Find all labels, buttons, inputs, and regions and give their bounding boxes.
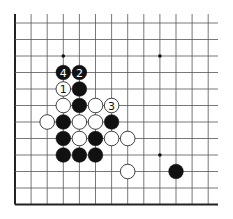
white-stone-icon [120,164,135,179]
star-point-icon [158,54,162,58]
white-stone-icon [72,115,87,130]
star-point-icon [158,153,162,157]
black-stone-move-2: 2 [72,65,87,80]
black-stone-icon [88,148,103,163]
black-stone [56,148,71,163]
white-stone-icon [72,131,87,146]
black-stone-icon [104,115,119,130]
white-stone-icon [40,115,55,130]
white-stone-icon [88,98,103,113]
white-stone-icon [88,115,103,130]
white-stone-icon [104,131,119,146]
move-number-label: 2 [76,67,83,80]
black-stone [88,148,103,163]
black-stone-move-4: 4 [56,65,71,80]
black-stone-icon [56,148,71,163]
black-stone-icon [72,98,87,113]
star-point-icon [62,54,66,58]
black-stone-icon [72,82,87,97]
white-stone [120,131,135,146]
move-number-label: 3 [108,100,115,113]
move-number-label: 4 [60,67,67,80]
white-stone-icon [120,131,135,146]
white-stone [56,98,71,113]
white-stone [88,98,103,113]
move-number-label: 1 [60,83,67,96]
black-stone [169,164,184,179]
black-stone-icon [72,148,87,163]
black-stone [56,115,71,130]
white-stone-move-1: 1 [56,82,71,97]
white-stone [72,131,87,146]
black-stone [104,115,119,130]
white-stone [40,115,55,130]
black-stone [72,148,87,163]
black-stone [56,131,71,146]
go-board: 4213 [0,0,233,219]
black-stone [72,82,87,97]
black-stone-icon [56,115,71,130]
white-stone [120,164,135,179]
black-stone [72,98,87,113]
white-stone [72,115,87,130]
black-stone [88,131,103,146]
white-stone-icon [56,98,71,113]
black-stone-icon [56,131,71,146]
white-stone [104,131,119,146]
black-stone-icon [169,164,184,179]
black-stone-icon [88,131,103,146]
white-stone [88,115,103,130]
white-stone-move-3: 3 [104,98,119,113]
